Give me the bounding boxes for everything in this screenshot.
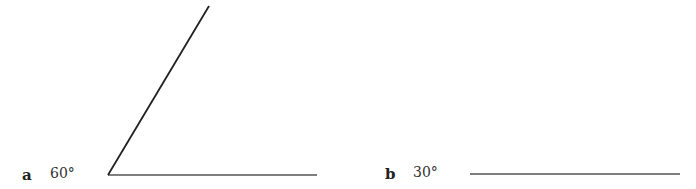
label-b-letter: b [385, 165, 396, 183]
label-a-angle: 60° [50, 165, 75, 181]
angle-a [108, 6, 317, 175]
label-b-angle: 30° [413, 164, 438, 180]
label-a-letter: a [22, 166, 32, 184]
angle-a-second-ray [108, 6, 209, 175]
angles-diagram [0, 0, 696, 189]
